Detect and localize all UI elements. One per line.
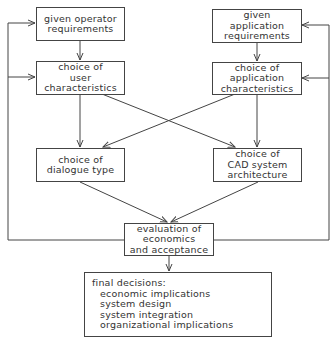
user-characteristics-box: choice of user characteristics xyxy=(36,61,125,95)
evaluation-box: evaluation of economics and acceptance xyxy=(124,223,214,256)
cad-architecture-box: choice of CAD system architecture xyxy=(213,148,302,182)
box-line: requirements xyxy=(48,24,114,35)
box-line: characteristics xyxy=(44,83,117,94)
box-line: requirements xyxy=(224,31,290,42)
box-line: architecture xyxy=(228,170,288,181)
dialogue-type-box: choice of dialogue type xyxy=(36,148,125,182)
box-line: and acceptance xyxy=(130,245,208,256)
box-line: characteristics xyxy=(221,84,294,95)
final-item: organizational implications xyxy=(92,320,233,331)
box-line: dialogue type xyxy=(47,165,115,176)
operator-requirements-box: given operator requirements xyxy=(36,7,125,41)
application-requirements-box: given application requirements xyxy=(212,9,302,43)
final-decisions-box: final decisions: economic implications s… xyxy=(84,272,272,337)
application-characteristics-box: choice of application characteristics xyxy=(212,62,302,95)
